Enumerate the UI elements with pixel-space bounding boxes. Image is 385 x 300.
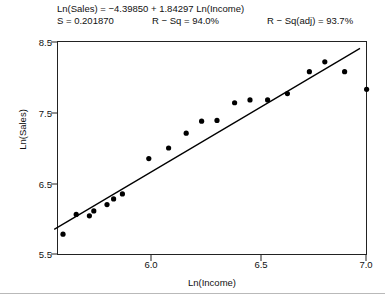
data-point: [232, 100, 237, 105]
data-point: [60, 232, 65, 237]
data-point: [146, 156, 151, 161]
data-point: [184, 131, 189, 136]
data-point: [104, 202, 109, 207]
data-point: [322, 59, 327, 64]
data-point: [364, 87, 369, 92]
data-point: [199, 119, 204, 124]
data-point: [111, 196, 116, 201]
axis-ticks: [51, 42, 366, 261]
data-point: [87, 213, 92, 218]
data-point: [214, 118, 219, 123]
data-point: [120, 191, 125, 196]
fit-line-segment: [54, 48, 360, 229]
bottom-divider: [0, 293, 385, 294]
data-points-group: [60, 59, 369, 237]
data-point: [91, 208, 96, 213]
plot-canvas: [0, 0, 385, 300]
plot-frame: [58, 42, 367, 255]
data-point: [307, 69, 312, 74]
data-point: [74, 212, 79, 217]
data-point: [247, 97, 252, 102]
data-point: [285, 91, 290, 96]
data-point: [166, 145, 171, 150]
regression-fit-line: [54, 48, 360, 229]
regression-scatter-figure: Ln(Sales) = −4.39850 + 1.84297 Ln(Income…: [0, 0, 385, 300]
data-point: [342, 69, 347, 74]
data-point: [265, 97, 270, 102]
